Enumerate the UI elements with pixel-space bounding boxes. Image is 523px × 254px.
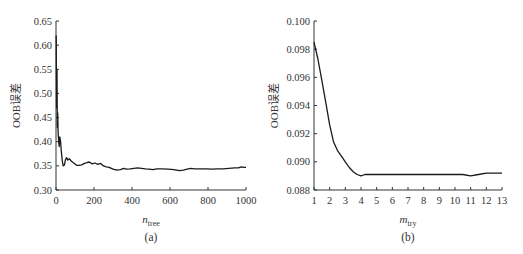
x-tick-label: 1 bbox=[311, 195, 316, 206]
x-tick-label: 0 bbox=[53, 195, 58, 206]
y-tick-label: 0.088 bbox=[286, 185, 310, 196]
x-tick-label: 8 bbox=[421, 195, 426, 206]
x-tick-label: 3 bbox=[343, 195, 348, 206]
y-tick-label: 0.092 bbox=[286, 128, 310, 139]
x-tick-label: 12 bbox=[481, 195, 492, 206]
x-tick-label: 6 bbox=[390, 195, 395, 206]
x-tick-label: 1000 bbox=[236, 195, 257, 206]
data-line bbox=[314, 42, 502, 176]
x-tick-label: 600 bbox=[162, 195, 178, 206]
y-tick-label: 0.100 bbox=[286, 16, 310, 27]
y-axis-label: OOB误差 bbox=[9, 83, 22, 128]
chart-panel-a: 0.300.350.400.450.500.550.600.6502004006… bbox=[9, 16, 257, 245]
chart-panel-b: 0.0880.0900.0920.0940.0960.0980.10012345… bbox=[267, 16, 507, 245]
y-tick-label: 0.098 bbox=[286, 44, 310, 55]
x-tick-label: 2 bbox=[327, 195, 332, 206]
x-tick-label: 7 bbox=[405, 195, 410, 206]
x-tick-label: 4 bbox=[358, 195, 364, 206]
x-tick-label: 200 bbox=[86, 195, 102, 206]
y-tick-label: 0.094 bbox=[286, 100, 310, 111]
y-tick-label: 0.096 bbox=[286, 72, 310, 83]
x-tick-label: 13 bbox=[497, 195, 508, 206]
panel-caption: (b) bbox=[401, 231, 415, 244]
y-tick-label: 0.50 bbox=[34, 88, 52, 99]
y-tick-label: 0.60 bbox=[34, 40, 52, 51]
y-tick-label: 0.35 bbox=[34, 160, 52, 171]
figure: 0.300.350.400.450.500.550.600.6502004006… bbox=[0, 0, 523, 254]
data-line bbox=[56, 36, 246, 171]
y-tick-label: 0.55 bbox=[34, 64, 52, 75]
x-tick-label: 10 bbox=[450, 195, 461, 206]
y-tick-label: 0.40 bbox=[34, 136, 52, 147]
y-axis-label: OOB误差 bbox=[267, 83, 280, 128]
x-tick-label: 400 bbox=[124, 195, 140, 206]
y-tick-label: 0.090 bbox=[286, 156, 310, 167]
x-tick-label: 9 bbox=[437, 195, 442, 206]
y-tick-label: 0.30 bbox=[34, 185, 52, 196]
y-tick-label: 0.45 bbox=[34, 112, 52, 123]
panel-caption: (a) bbox=[145, 231, 158, 244]
x-axis-label: mtry bbox=[400, 213, 417, 228]
x-axis-label: ntree bbox=[142, 213, 160, 228]
x-tick-label: 11 bbox=[466, 195, 476, 206]
y-tick-label: 0.65 bbox=[34, 16, 52, 27]
x-tick-label: 5 bbox=[374, 195, 379, 206]
x-tick-label: 800 bbox=[200, 195, 216, 206]
